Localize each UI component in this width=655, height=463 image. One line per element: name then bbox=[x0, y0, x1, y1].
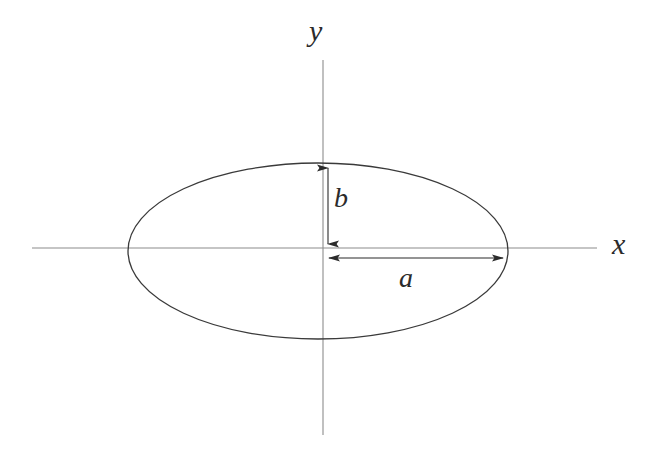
y-axis-label: y bbox=[309, 16, 322, 46]
diagram-canvas bbox=[0, 0, 655, 463]
ellipse-diagram-figure: y x b a bbox=[0, 0, 655, 463]
ellipse-curve bbox=[128, 163, 508, 339]
x-axis-label: x bbox=[612, 229, 625, 259]
semi-major-axis-label: a bbox=[399, 264, 413, 292]
semi-minor-axis-label: b bbox=[334, 184, 348, 212]
